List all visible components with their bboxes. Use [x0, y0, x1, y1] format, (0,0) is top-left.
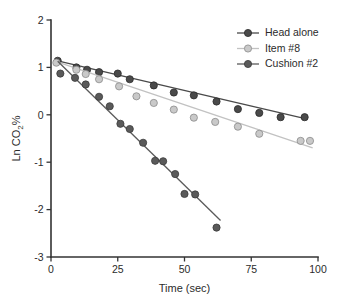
series-trendline	[56, 62, 312, 148]
x-axis-title: Time (sec)	[159, 282, 211, 294]
y-axis-title-main: Ln CO	[10, 129, 22, 161]
data-point	[114, 70, 121, 77]
legend: Head aloneItem #8Cushion #2	[237, 26, 319, 69]
data-point	[126, 125, 133, 132]
data-point	[82, 70, 89, 77]
data-point	[73, 66, 80, 73]
chart-figure: 210-1-2-30255075100Time (sec)Ln CO2%Head…	[0, 0, 340, 298]
legend-label: Head alone	[265, 26, 319, 38]
legend-item-2[interactable]: Cushion #2	[237, 57, 318, 69]
data-point	[172, 170, 179, 177]
x-axis-tick-label: 75	[245, 263, 257, 275]
x-axis-tick-label: 100	[309, 263, 327, 275]
y-axis-tick-label: -3	[34, 251, 43, 263]
y-axis-tick-label: 2	[38, 14, 44, 26]
data-point	[170, 89, 177, 96]
y-axis-tick-label: -2	[34, 203, 43, 215]
legend-marker-swatch	[244, 60, 251, 67]
data-point	[152, 157, 159, 164]
y-axis-tick-label: -1	[34, 156, 43, 168]
x-axis-tick-label: 50	[179, 263, 191, 275]
data-point	[115, 83, 122, 90]
data-point	[306, 137, 313, 144]
data-point	[256, 109, 263, 116]
data-point	[213, 98, 220, 105]
data-point	[126, 76, 133, 83]
series-group-2	[57, 61, 221, 231]
data-point	[150, 99, 157, 106]
data-point	[192, 191, 199, 198]
x-axis-tick-label: 25	[112, 263, 124, 275]
data-point	[95, 76, 102, 83]
legend-marker-swatch	[244, 45, 251, 52]
data-point	[170, 106, 177, 113]
data-point	[117, 120, 124, 127]
legend-item-1[interactable]: Item #8	[237, 42, 300, 54]
data-point	[82, 81, 89, 88]
legend-label: Item #8	[265, 42, 300, 54]
data-point	[301, 114, 308, 121]
legend-marker-swatch	[244, 29, 251, 36]
legend-item-0[interactable]: Head alone	[237, 26, 319, 38]
data-point	[160, 158, 167, 165]
data-point	[57, 70, 64, 77]
data-point	[213, 224, 220, 231]
data-point	[256, 130, 263, 137]
y-axis-tick-label: 1	[38, 61, 44, 73]
data-point	[190, 92, 197, 99]
data-point	[212, 118, 219, 125]
x-axis-tick-label: 0	[48, 263, 54, 275]
data-point	[150, 82, 157, 89]
legend-label: Cushion #2	[265, 57, 318, 69]
data-point	[297, 137, 304, 144]
data-point	[234, 123, 241, 130]
data-point	[190, 114, 197, 121]
scatter-plot: 210-1-2-30255075100Time (sec)Ln CO2%Head…	[0, 0, 340, 298]
series-group-1	[53, 59, 314, 148]
data-point	[277, 114, 284, 121]
data-point	[71, 74, 78, 81]
data-point	[106, 103, 113, 110]
data-point	[133, 93, 140, 100]
data-point	[95, 93, 102, 100]
y-axis-title-suffix: %	[10, 115, 22, 125]
y-axis-title: Ln CO2%	[10, 115, 25, 161]
series-trendline	[58, 61, 308, 119]
data-point	[181, 190, 188, 197]
data-point	[234, 106, 241, 113]
y-axis-tick-label: 0	[38, 109, 44, 121]
data-point	[140, 139, 147, 146]
